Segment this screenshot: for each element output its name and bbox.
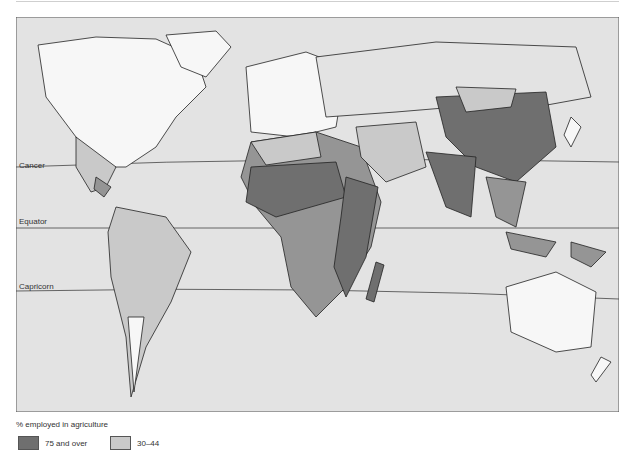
top-rule <box>16 1 619 2</box>
legend-label-30-44: 30–44 <box>137 439 159 448</box>
legend-title: % employed in agriculture <box>16 420 108 429</box>
legend-swatch-30-44 <box>110 436 131 450</box>
world-map <box>16 17 619 412</box>
tropic-of-cancer-label: Cancer <box>19 161 45 170</box>
legend-swatch-75-over <box>18 436 39 450</box>
tropic-of-capricorn-label: Capricorn <box>19 282 54 291</box>
legend-label-75-over: 75 and over <box>45 439 87 448</box>
equator-label: Equator <box>19 217 47 226</box>
